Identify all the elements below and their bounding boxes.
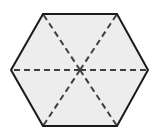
hexagon-figure	[0, 0, 161, 134]
